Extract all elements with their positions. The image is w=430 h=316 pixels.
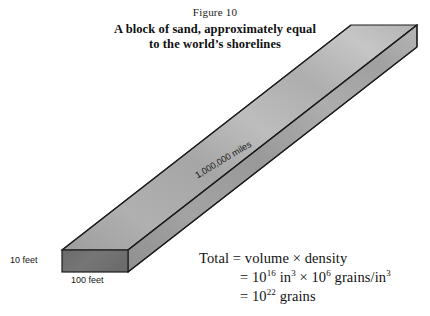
block-end-cap bbox=[62, 250, 128, 272]
block-top-face bbox=[62, 25, 417, 250]
equation-line-2: = 1016 in3 × 106 grains/in3 bbox=[240, 269, 391, 286]
equation-line-3: = 1022 grains bbox=[240, 288, 316, 305]
equation-expression-1: volume × density bbox=[245, 250, 347, 266]
equation-base-1: 10 bbox=[252, 269, 267, 285]
block-front-face bbox=[128, 25, 417, 272]
equation-result-exponent: 22 bbox=[267, 287, 276, 297]
equation-line-1: Total = volume × density bbox=[199, 250, 347, 267]
equation-unit-1: in bbox=[280, 269, 291, 285]
equation-equals-3: = bbox=[240, 288, 248, 304]
equation-exponent-1: 16 bbox=[267, 268, 276, 278]
figure-title: A block of sand, approximately equal to … bbox=[65, 22, 365, 52]
block-bottom-edge bbox=[128, 47, 417, 272]
figure-title-line-1: A block of sand, approximately equal bbox=[65, 22, 365, 37]
equation-unit-2: grains/in bbox=[335, 269, 387, 285]
figure-number: Figure 10 bbox=[0, 6, 430, 18]
dimension-label-height: 10 feet bbox=[10, 255, 38, 265]
block-mid-edge bbox=[128, 25, 417, 250]
equation-exponent-2: 6 bbox=[326, 268, 331, 278]
equation-unit-2-exponent: 3 bbox=[386, 268, 391, 278]
equation-equals-2: = bbox=[240, 269, 248, 285]
equation-times: × bbox=[299, 269, 307, 285]
dimension-label-width: 100 feet bbox=[71, 275, 104, 285]
figure-title-line-2: to the world’s shorelines bbox=[65, 37, 365, 52]
equation-result-unit: grains bbox=[280, 288, 316, 304]
block-top-silhouette-edge bbox=[62, 25, 351, 250]
equation-equals-1: = bbox=[233, 250, 241, 266]
equation-total-label: Total bbox=[199, 250, 229, 266]
equation-base-2: 10 bbox=[312, 269, 327, 285]
equation-result-base: 10 bbox=[252, 288, 267, 304]
equation-unit-1-exponent: 3 bbox=[291, 268, 296, 278]
